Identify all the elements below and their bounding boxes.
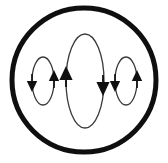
circulation-loops-diagram (0, 0, 168, 163)
diagram-canvas (0, 0, 168, 163)
diagram-background (0, 0, 168, 163)
